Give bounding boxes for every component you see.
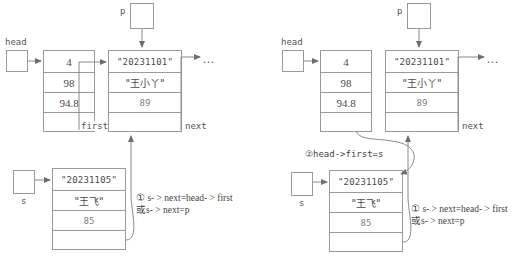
- panel-step-1: p head 4 98 94.8 first "20231101" "王小丫" …: [0, 0, 261, 266]
- panel-step-2: p head 4 98 94.8 "20231101" "王小丫" 89 nex…: [261, 0, 522, 266]
- connectors-right: [261, 0, 522, 266]
- connectors-left: [0, 0, 261, 266]
